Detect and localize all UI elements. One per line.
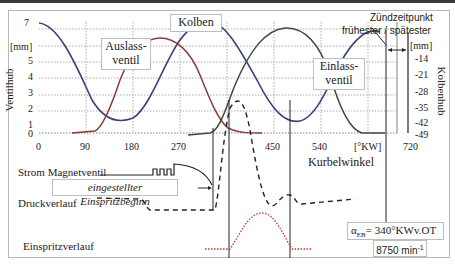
einlassventil-label: Einlass-ventil (313, 58, 365, 90)
y-tick-left: 0 (28, 128, 33, 139)
y-tick-right: -28 (415, 86, 428, 97)
y-unit-right: [mm] (410, 40, 432, 51)
einspritzbeginn-label: eingestellter Einspritzbeginn (52, 179, 178, 196)
y-tick-left: 4 (28, 71, 33, 82)
einspritzverlauf-label: Einspritzverlauf (23, 240, 94, 252)
druckverlauf-label: Druckverlauf (18, 197, 77, 209)
x-tick: 540 (312, 141, 327, 152)
kolben-label: Kolben (170, 14, 222, 32)
zuendzeitpunkt-label: Zündzeitpunkt (370, 12, 433, 23)
strom-magnetventil-label: Strom Magnetventil (18, 166, 106, 178)
x-tick: 0 (36, 141, 41, 152)
x-label: Kurbelwinkel (308, 155, 374, 170)
y-tick-right: -49 (415, 129, 428, 140)
auslassventil-label: Auslass-ventil (101, 38, 151, 70)
x-tick: 90 (80, 141, 90, 152)
y-tick-left: 5 (28, 55, 33, 66)
rpm-box: 8750 min-1 (373, 240, 427, 257)
y-tick-right: -21 (415, 69, 428, 80)
y-label-right: Kolbenhub (436, 67, 448, 116)
x-tick: 180 (124, 141, 139, 152)
y-unit-left: [mm] (10, 41, 32, 52)
y-tick-left: 3 (28, 87, 33, 98)
y-tick-left: 7 (24, 17, 29, 28)
x-tick: 450 (265, 141, 280, 152)
x-unit: [°KW] (354, 141, 381, 152)
y-tick-right: -42 (415, 117, 428, 128)
einspritzverlauf-curve (205, 213, 312, 249)
y-tick-left: 2 (28, 103, 33, 114)
zuendzeitpunkt-range-label: frühester / spätester (342, 25, 431, 36)
y-tick-right: -14 (415, 53, 428, 64)
y-label-left: Ventilhub (3, 69, 15, 112)
x-tick: 720 (403, 141, 418, 152)
alpha-eb-box: αEB= 340°KWv.OT (347, 222, 444, 240)
x-tick: 270 (171, 141, 186, 152)
y-tick-right: -35 (415, 102, 428, 113)
